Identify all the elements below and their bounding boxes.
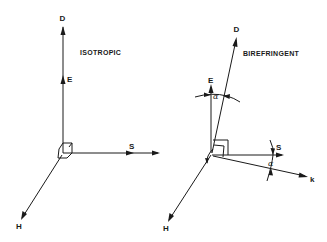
isotropic-panel: ISOTROPIC D E S H: [16, 14, 160, 231]
birefringent-title: BIREFRINGENT: [243, 50, 300, 57]
k-vector-line: [213, 156, 305, 176]
right-angle-marker: [58, 143, 72, 158]
s-arrowhead-icon: [276, 153, 284, 158]
s-arrowhead-icon: [126, 151, 134, 156]
e-label: E: [208, 76, 214, 85]
h-vector-line: [22, 155, 62, 218]
alpha-label-e-d: α: [213, 92, 219, 101]
h-label: H: [163, 224, 169, 233]
vector-diagram: ISOTROPIC D E S H BIREFRINGENT D E α: [0, 0, 327, 242]
e-arrowhead-icon: [61, 75, 66, 84]
h-label: H: [16, 222, 22, 231]
k-label: k: [310, 175, 315, 184]
h-vector-line: [169, 155, 211, 220]
d-label: D: [234, 25, 240, 34]
isotropic-title: ISOTROPIC: [80, 49, 121, 56]
s-label: S: [276, 143, 282, 152]
k-arrowhead-icon: [152, 151, 160, 156]
d-arrowhead-icon: [233, 37, 238, 47]
d-label: D: [60, 14, 66, 23]
birefringent-panel: BIREFRINGENT D E α S k α H: [163, 25, 315, 233]
d-arrowhead-icon: [61, 26, 66, 35]
alpha-label-s-k: α: [268, 159, 274, 168]
k-arrowhead-icon: [299, 173, 309, 178]
alpha-arrow-left-icon: [204, 93, 211, 98]
s-label: S: [129, 142, 135, 151]
e-label: E: [67, 75, 73, 84]
alpha-arrow-top-icon: [271, 148, 276, 155]
right-angle-marker-e-s: [213, 140, 228, 155]
